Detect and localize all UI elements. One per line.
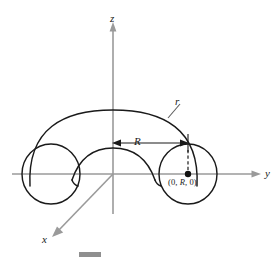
z-axis-label: z xyxy=(110,13,114,24)
y-axis-label: y xyxy=(265,168,270,179)
x-axis-line xyxy=(58,174,113,231)
minor-radius-label: r xyxy=(175,96,179,107)
left-tube-connector xyxy=(72,180,78,186)
center-point-suffix: , 0) xyxy=(185,177,197,187)
center-point-label: (0, R, 0) xyxy=(168,178,197,187)
scale-bar xyxy=(79,252,101,257)
center-point-prefix: (0, xyxy=(168,177,180,187)
x-axis-label: x xyxy=(42,234,47,245)
major-radius-label: R xyxy=(134,136,141,147)
y-axis-arrowhead xyxy=(252,171,262,178)
torus-diagram-svg xyxy=(0,0,280,262)
torus-figure: z y x r R (0, R, 0) xyxy=(0,0,280,262)
axes-group xyxy=(12,22,261,237)
